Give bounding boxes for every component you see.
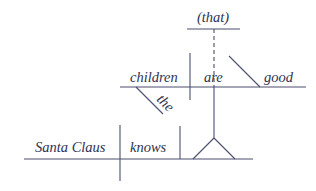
pedestal-group: [193, 87, 235, 159]
main-verb-word: knows: [130, 139, 167, 155]
clause-complement-divider: [229, 56, 260, 87]
modifier-word: the: [154, 91, 178, 115]
noun-clause-group: children are good the: [120, 53, 306, 115]
main-clause-group: Santa Claus knows: [24, 125, 253, 181]
main-subject-word: Santa Claus: [35, 139, 106, 155]
clause-verb-word: are: [204, 69, 223, 85]
connector-word: (that): [197, 9, 229, 26]
sentence-diagram: (that) children are good the Santa Claus…: [0, 0, 316, 191]
clause-subject-word: children: [130, 69, 178, 85]
clause-complement-word: good: [264, 69, 294, 85]
pedestal-left-leg: [193, 138, 214, 159]
pedestal-right-leg: [214, 138, 235, 159]
